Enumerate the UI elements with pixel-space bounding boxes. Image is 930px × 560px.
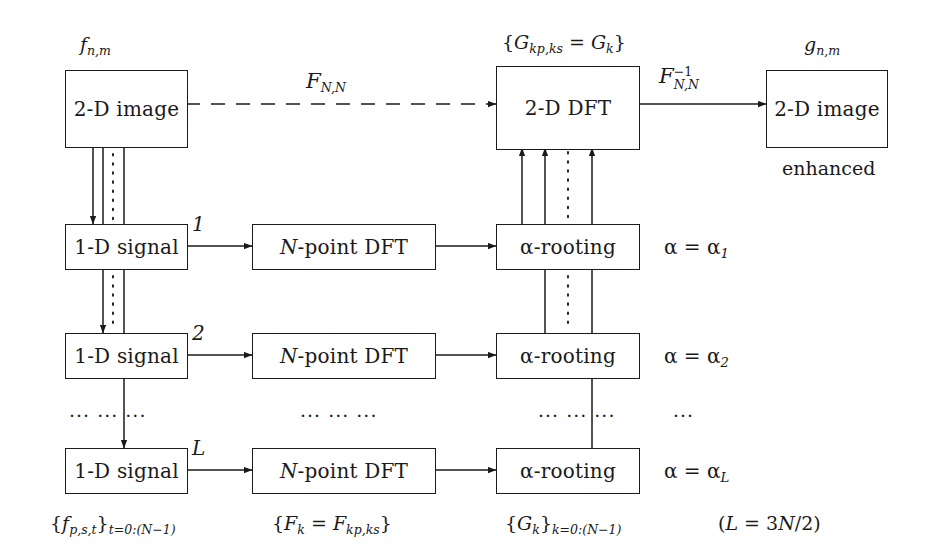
input-image-symbol: fn,m — [80, 33, 111, 58]
rooting-label-row1: α-rooting — [520, 235, 616, 259]
signal-box-row2[interactable]: 1-D signal — [65, 333, 188, 379]
rooting-label-row3: α-rooting — [520, 459, 616, 483]
signal-box-row1[interactable]: 1-D signal — [65, 224, 188, 270]
output-image-box[interactable]: 2-D image — [766, 70, 888, 148]
rooting-box-row1[interactable]: α-rooting — [496, 224, 640, 270]
row-index-1: 1 — [192, 212, 205, 236]
ellipsis-column-alpha: ··· — [673, 404, 694, 426]
inverse-transform-label: F−1N,N — [659, 63, 699, 91]
diagram-canvas: fn,m 2-D image FN,N {Gkp,ks = Gk} 2-D DF… — [0, 0, 930, 560]
alpha-value-row3: α = αL — [664, 459, 729, 485]
input-image-box[interactable]: 2-D image — [65, 70, 188, 148]
row-index-3: L — [192, 436, 205, 460]
npoint-dft-label-row1: N-point DFT — [280, 235, 408, 259]
forward-transform-label: FN,N — [306, 68, 346, 95]
npoint-dft-label-row2: N-point DFT — [280, 344, 408, 368]
output-image-symbol: gn,m — [804, 33, 840, 58]
ellipsis-column-rooting: ··· ··· ··· — [538, 404, 615, 426]
ellipsis-column-signals: ··· ··· ··· — [69, 404, 146, 426]
ellipsis-column-dft: ··· ··· ··· — [300, 404, 377, 426]
enhanced-label: enhanced — [782, 157, 875, 179]
npoint-dft-box-row1[interactable]: N-point DFT — [252, 224, 436, 270]
caption-rooted: {Gk}k=0:(N−1) — [505, 512, 621, 537]
caption-coefficients: {Fk = Fkp,ks} — [272, 512, 392, 537]
caption-signals: {fp,s,t}t=0:(N−1) — [50, 512, 176, 537]
rooting-label-row2: α-rooting — [520, 344, 616, 368]
row-index-2: 2 — [192, 321, 205, 345]
alpha-value-row1: α = α1 — [664, 235, 729, 261]
dft2d-symbol: {Gkp,ks = Gk} — [502, 31, 626, 56]
rooting-box-row3[interactable]: α-rooting — [496, 448, 640, 494]
npoint-dft-label-row3: N-point DFT — [280, 459, 408, 483]
alpha-value-row2: α = α2 — [664, 344, 729, 370]
npoint-dft-box-row2[interactable]: N-point DFT — [252, 333, 436, 379]
npoint-dft-box-row3[interactable]: N-point DFT — [252, 448, 436, 494]
signal-box-row3[interactable]: 1-D signal — [65, 448, 188, 494]
caption-count: (L = 3N/2) — [718, 512, 821, 534]
dft2d-box[interactable]: 2-D DFT — [496, 66, 640, 150]
rooting-box-row2[interactable]: α-rooting — [496, 333, 640, 379]
